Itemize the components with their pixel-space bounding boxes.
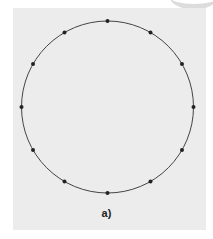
circle-point — [149, 179, 153, 183]
circle-point — [31, 148, 35, 152]
circle-diagram — [0, 0, 213, 239]
circle-point — [192, 105, 196, 109]
circle-point — [180, 62, 184, 66]
circle-point — [180, 148, 184, 152]
circle-point — [20, 105, 24, 109]
circle-point — [106, 19, 110, 23]
circle-point — [63, 31, 67, 35]
figure-label: a) — [0, 207, 213, 219]
circle-point — [63, 179, 67, 183]
circle-points — [20, 19, 196, 195]
circle-point — [31, 62, 35, 66]
circle-point — [106, 191, 110, 195]
circle-outline — [22, 21, 194, 193]
circle-point — [149, 31, 153, 35]
